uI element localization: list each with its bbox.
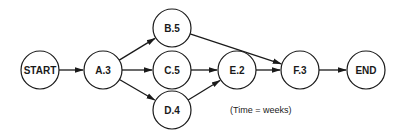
- node-d: D.4: [153, 91, 191, 129]
- node-c: C.5: [153, 51, 191, 89]
- edge-a-to-b: [119, 38, 155, 60]
- node-f: F.3: [281, 51, 319, 89]
- node-label: END: [355, 65, 376, 76]
- node-start: START: [21, 51, 59, 89]
- node-a: A.3: [84, 51, 122, 89]
- activity-network-diagram: STARTA.3B.5C.5D.4E.2F.3END (Time = weeks…: [0, 0, 402, 133]
- node-b: B.5: [153, 9, 191, 47]
- node-label: E.2: [229, 65, 244, 76]
- node-label: D.4: [164, 105, 180, 116]
- node-label: B.5: [164, 23, 180, 34]
- node-label: START: [24, 65, 57, 76]
- node-label: F.3: [293, 65, 307, 76]
- node-label: A.3: [95, 65, 111, 76]
- node-end: END: [347, 51, 385, 89]
- node-label: C.5: [164, 65, 180, 76]
- edge-a-to-d: [119, 80, 154, 100]
- time-unit-note: (Time = weeks): [230, 105, 291, 115]
- edge-d-to-e: [188, 80, 220, 100]
- node-e: E.2: [218, 51, 256, 89]
